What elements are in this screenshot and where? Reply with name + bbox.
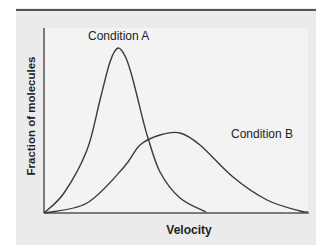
x-axis-label: Velocity <box>166 223 211 237</box>
annotation-condition-a: Condition A <box>88 29 149 43</box>
curve-condition-a <box>44 48 206 213</box>
curve-condition-b <box>44 132 308 213</box>
chart-svg <box>0 0 328 252</box>
y-axis-label: Fraction of molecules <box>25 57 37 176</box>
annotation-condition-b: Condition B <box>231 127 293 141</box>
